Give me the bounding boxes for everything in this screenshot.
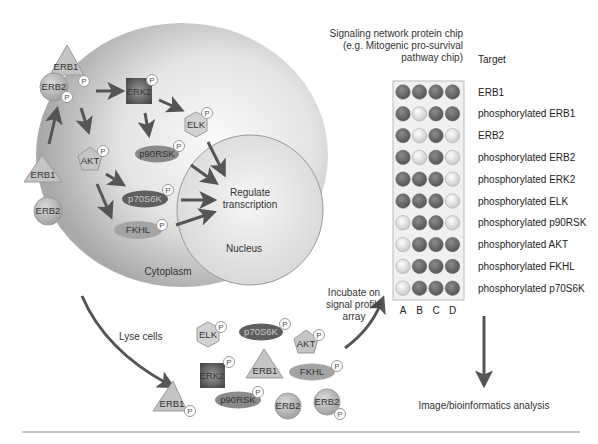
svg-text:ERK2: ERK2 (127, 86, 152, 97)
lysate-elk: ELK P (197, 322, 227, 348)
svg-text:AKT: AKT (297, 338, 316, 349)
chip-target-label: phosphorylated p90RSK (478, 217, 587, 228)
cytoplasm-label: Cytoplasm (144, 266, 191, 277)
svg-text:P: P (218, 323, 223, 332)
chip-target-label: phosphorylated ERK2 (478, 174, 576, 185)
chip-spot-a-7 (396, 216, 410, 230)
chip-target-label: phosphorylated ERB2 (478, 152, 576, 163)
lyse-label: Lyse cells (119, 331, 163, 342)
nucleus-action-line1: Regulate (230, 187, 270, 198)
svg-text:P: P (226, 358, 231, 367)
svg-text:ERB2: ERB2 (315, 396, 340, 407)
protein-erb2-bottom: ERB2 (34, 197, 62, 225)
svg-text:P: P (334, 362, 339, 371)
svg-text:ELK: ELK (187, 119, 206, 130)
incubate-line3: array (343, 311, 366, 322)
chip-spot-b-10 (412, 281, 426, 295)
svg-text:P: P (316, 331, 321, 340)
svg-text:ERB1: ERB1 (253, 365, 278, 376)
chip-target-label: ERB2 (478, 130, 505, 141)
chip-target-label: phosphorylated p70S6K (478, 283, 585, 294)
nucleus-action-line2: transcription (223, 199, 277, 210)
chip-spot-b-1 (412, 85, 426, 99)
chip-spot-b-8 (412, 237, 426, 251)
chip-spot-b-6 (412, 194, 426, 208)
chip-spot-c-1 (429, 85, 443, 99)
svg-text:ERB2: ERB2 (276, 400, 301, 411)
chip-target-label: phosphorylated AKT (478, 239, 568, 250)
chip-spot-c-2 (429, 107, 443, 121)
svg-text:P: P (64, 93, 69, 102)
svg-text:P: P (159, 221, 164, 230)
chip-spot-c-7 (429, 216, 443, 230)
svg-text:AKT: AKT (81, 155, 100, 166)
chip-spot-a-2 (396, 107, 410, 121)
chip-target-label: phosphorylated ELK (478, 196, 568, 207)
chip-spot-a-1 (396, 85, 410, 99)
chip-spot-b-3 (412, 128, 426, 142)
lysate-akt: AKT P (294, 330, 325, 354)
incubate-line2: signal profile (326, 299, 383, 310)
svg-text:p90RSK: p90RSK (139, 148, 175, 159)
chip-spot-a-3 (396, 128, 410, 142)
svg-text:ERB1: ERB1 (54, 61, 79, 72)
svg-text:P: P (149, 76, 154, 85)
svg-text:ELK: ELK (199, 329, 218, 340)
chip-spot-d-7 (445, 216, 459, 230)
chip-column-label: C (432, 305, 439, 316)
lysate-erb1-center: ERB1 (246, 349, 283, 378)
svg-text:P: P (165, 186, 170, 195)
incubate-line1: Incubate on (328, 287, 380, 298)
chip-spot-d-1 (445, 85, 459, 99)
chip-column-label: A (400, 305, 407, 316)
nucleus-label: Nucleus (226, 243, 262, 254)
chip-spot-c-3 (429, 128, 443, 142)
chip-spot-a-4 (396, 150, 410, 164)
svg-text:ERB1: ERB1 (160, 398, 185, 409)
chip-spot-b-4 (412, 150, 426, 164)
svg-text:P: P (282, 320, 287, 329)
chip-spot-b-2 (412, 107, 426, 121)
lysate-erb2-plain: ERB2 (275, 393, 301, 419)
analysis-label: Image/bioinformatics analysis (418, 400, 549, 411)
chip-spot-b-5 (412, 172, 426, 186)
svg-text:P: P (81, 77, 86, 86)
chip-spot-d-3 (445, 128, 459, 142)
svg-text:ERB2: ERB2 (42, 81, 67, 92)
chip-title-line1: Signaling network protein chip (330, 28, 464, 39)
chip-spot-a-9 (396, 259, 410, 273)
svg-text:ERK2: ERK2 (200, 370, 225, 381)
svg-text:FKHL: FKHL (126, 224, 150, 235)
svg-text:p70S6K: p70S6K (244, 326, 278, 337)
chip-column-labels: ABCD (400, 305, 456, 316)
svg-text:p90RSK: p90RSK (220, 394, 256, 405)
lysate-p90rsk: p90RSK P (215, 387, 264, 409)
chip-spot-d-6 (445, 194, 459, 208)
chip-target-label: ERB1 (478, 87, 505, 98)
chip-spot-a-10 (396, 281, 410, 295)
chip-column-label: B (416, 305, 423, 316)
target-header: Target (478, 54, 506, 65)
chip-spot-c-4 (429, 150, 443, 164)
chip-spot-a-8 (396, 237, 410, 251)
svg-text:ERB2: ERB2 (36, 205, 61, 216)
lysate-erb1-left: ERB1 P (153, 381, 196, 417)
lysate-erb2-phos: ERB2 P (314, 389, 346, 420)
chip-spot-c-5 (429, 172, 443, 186)
chip-spot-c-6 (429, 194, 443, 208)
chip-spot-c-9 (429, 259, 443, 273)
chip-target-label: phosphorylated FKHL (478, 261, 575, 272)
svg-text:P: P (187, 407, 192, 416)
lysate-fkhl: FKHL P (289, 361, 343, 381)
chip-spot-d-4 (445, 150, 459, 164)
svg-text:P: P (337, 410, 342, 419)
nucleus (177, 135, 323, 285)
lysate-erk2: ERK2 P (200, 357, 235, 389)
chip-spot-c-10 (429, 281, 443, 295)
svg-text:FKHL: FKHL (300, 366, 324, 377)
lysate-p70s6k: p70S6K P (239, 319, 291, 341)
svg-text:P: P (100, 147, 105, 156)
chip-column-label: D (449, 305, 456, 316)
chip-spot-d-5 (445, 172, 459, 186)
chip-spot-b-7 (412, 216, 426, 230)
